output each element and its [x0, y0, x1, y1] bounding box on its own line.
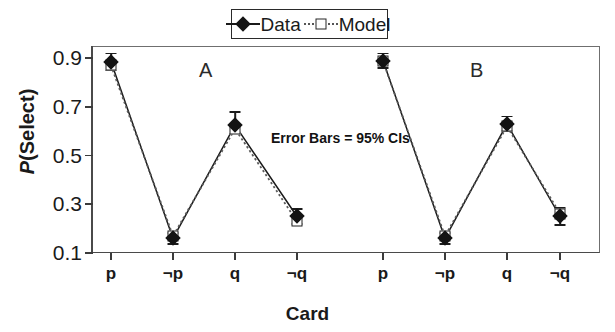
y-axis-spine — [91, 46, 93, 254]
x-axis-tick — [506, 253, 507, 260]
y-axis-tick-label: 0.3 — [24, 193, 82, 214]
figure-canvas: Data Model P(Select) 0.90.70.50.30.1 p¬p… — [0, 0, 615, 332]
x-axis-tick-label: p — [360, 265, 406, 282]
x-axis-tick — [559, 253, 560, 260]
open-square-icon — [315, 19, 326, 30]
y-axis-tick — [85, 106, 93, 108]
error-bar-annotation: Error Bars = 95% CIs — [271, 131, 410, 145]
x-axis-tick-label: q — [212, 265, 258, 282]
y-axis-tick — [85, 155, 93, 157]
x-axis-tick-label: ¬p — [422, 265, 468, 282]
x-axis-tick-label: ¬q — [274, 265, 320, 282]
legend-label-model: Model — [338, 15, 394, 34]
x-axis-tick-label: ¬q — [537, 265, 583, 282]
y-axis-tick — [85, 203, 93, 205]
x-axis-tick-label: ¬p — [150, 265, 196, 282]
y-axis-tick — [85, 57, 93, 59]
filled-diamond-icon — [235, 16, 251, 32]
panel-label-a: A — [199, 60, 212, 80]
y-axis-tick-label: 0.7 — [24, 96, 82, 117]
legend-sample-data — [226, 15, 260, 33]
x-axis-title: Card — [0, 303, 615, 325]
x-axis-tick — [172, 253, 173, 260]
x-axis-tick — [296, 253, 297, 260]
y-axis-tick-label: 0.1 — [24, 242, 82, 263]
y-axis-tick — [85, 252, 93, 254]
legend-label-data: Data — [260, 15, 304, 34]
x-axis-tick — [444, 253, 445, 260]
x-axis-tick — [234, 253, 235, 260]
legend-sample-model — [304, 15, 338, 33]
x-axis-tick-label: p — [88, 265, 134, 282]
x-axis-tick — [382, 253, 383, 260]
panel-label-b: B — [470, 60, 483, 80]
y-axis-tick-label: 0.9 — [24, 47, 82, 68]
x-axis-tick-label: q — [484, 265, 530, 282]
y-axis-title: P(Select) — [16, 72, 39, 192]
legend-entry-model: Model — [304, 10, 394, 38]
x-axis-tick — [110, 253, 111, 260]
plot-area — [92, 46, 600, 253]
y-axis-tick-label: 0.5 — [24, 145, 82, 166]
legend-entry-data: Data — [226, 10, 304, 38]
chart-legend: Data Model — [231, 9, 388, 39]
